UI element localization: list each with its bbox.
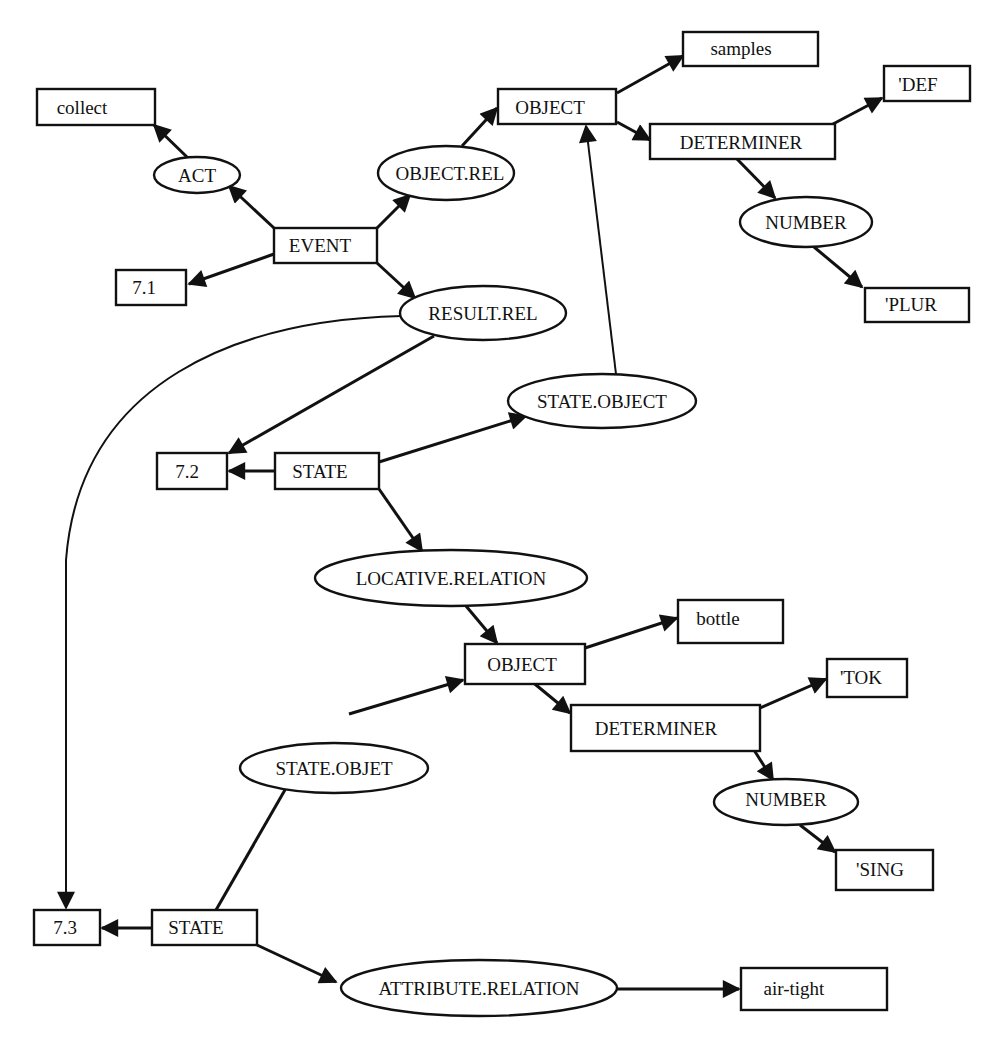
nodes: collect ACT EVENT 7.1 OBJECT.REL OBJECT xyxy=(34,32,970,1016)
node-collect: collect xyxy=(37,89,155,125)
edge-resultrel-7-3 xyxy=(66,316,402,908)
node-label: OBJECT xyxy=(515,97,585,118)
edge-determiner-def xyxy=(833,98,882,124)
edge-resultrel-7-2 xyxy=(229,336,434,453)
edge-locativerelation-object xyxy=(466,606,497,643)
node-label: NUMBER xyxy=(765,212,847,233)
node-label: collect xyxy=(57,97,108,118)
node-label: 7.1 xyxy=(132,277,156,298)
node-plur: 'PLUR xyxy=(865,288,969,322)
node-bottle: bottle xyxy=(678,600,783,643)
edge-state2-attributerelation xyxy=(257,945,336,982)
node-result-rel: RESULT.REL xyxy=(400,286,566,340)
edge-state-locativerelation xyxy=(379,489,422,551)
node-label: samples xyxy=(710,38,771,59)
node-label: 7.2 xyxy=(175,461,199,482)
node-state-1: STATE xyxy=(275,453,379,489)
edge-state-stateobject xyxy=(379,416,526,462)
node-attribute-relation: ATTRIBUTE.RELATION xyxy=(341,960,617,1016)
node-label: NUMBER xyxy=(745,789,827,810)
node-7-2: 7.2 xyxy=(157,453,227,489)
semantic-network-diagram: collect ACT EVENT 7.1 OBJECT.REL OBJECT xyxy=(0,0,986,1047)
node-label: OBJECT xyxy=(487,654,557,675)
node-label: ATTRIBUTE.RELATION xyxy=(378,978,579,999)
node-object-1: OBJECT xyxy=(498,89,616,124)
node-def: 'DEF xyxy=(884,66,970,101)
node-label: 'TOK xyxy=(840,667,882,688)
edge-object-samples xyxy=(617,56,683,93)
node-tok: 'TOK xyxy=(827,659,907,697)
node-determiner-1: DETERMINER xyxy=(650,124,835,159)
edge-number-plur xyxy=(814,247,862,287)
node-7-3: 7.3 xyxy=(34,910,100,945)
edge-object-determiner xyxy=(617,122,650,140)
node-label: OBJECT.REL xyxy=(396,163,505,184)
node-label: 'PLUR xyxy=(885,294,937,315)
edge-objectrel-object xyxy=(462,108,497,146)
node-samples: samples xyxy=(683,32,818,66)
node-label: RESULT.REL xyxy=(428,303,537,324)
node-7-1: 7.1 xyxy=(116,270,186,305)
edge-event-act xyxy=(229,186,274,228)
node-object-rel: OBJECT.REL xyxy=(378,146,514,200)
node-label: DETERMINER xyxy=(595,718,718,739)
node-air-tight: air-tight xyxy=(741,968,887,1010)
node-state-objet: STATE.OBJET xyxy=(240,743,428,793)
edge-number2-sing xyxy=(800,825,835,852)
node-label: STATE xyxy=(292,461,347,482)
node-number-1: NUMBER xyxy=(740,197,872,247)
node-label: 'DEF xyxy=(898,74,937,95)
edge-determiner-number xyxy=(737,159,775,198)
edge-event-objectrel xyxy=(377,195,410,228)
edge-stateobject-object xyxy=(586,126,616,374)
node-object-2: OBJECT xyxy=(465,644,585,684)
edge-act-collect xyxy=(154,125,188,158)
node-label: 7.3 xyxy=(53,917,77,938)
edge-determiner2-tok xyxy=(760,679,826,708)
edge-event-resultrel xyxy=(377,263,415,298)
node-locative-relation: LOCATIVE.RELATION xyxy=(315,550,587,606)
edge-object-bottle xyxy=(585,618,677,648)
node-label: bottle xyxy=(696,608,739,629)
node-label: STATE.OBJECT xyxy=(537,391,667,412)
node-state-object: STATE.OBJECT xyxy=(508,374,696,428)
node-state-2: STATE xyxy=(152,910,257,945)
edge-stateobjet-object2 xyxy=(349,680,463,714)
node-label: DETERMINER xyxy=(680,132,803,153)
node-label: STATE.OBJET xyxy=(275,758,393,779)
node-label: ACT xyxy=(178,165,216,186)
node-event: EVENT xyxy=(274,228,377,263)
edge-determiner2-number2 xyxy=(754,750,773,780)
node-sing: 'SING xyxy=(836,850,933,890)
node-label: 'SING xyxy=(856,859,904,880)
node-number-2: NUMBER xyxy=(714,779,858,825)
node-label: LOCATIVE.RELATION xyxy=(356,568,547,589)
node-determiner-2: DETERMINER xyxy=(571,705,760,751)
node-label: air-tight xyxy=(764,978,826,999)
node-act: ACT xyxy=(154,157,240,193)
node-label: STATE xyxy=(168,917,223,938)
node-label: EVENT xyxy=(289,235,352,256)
edge-event-7-1 xyxy=(189,254,274,284)
